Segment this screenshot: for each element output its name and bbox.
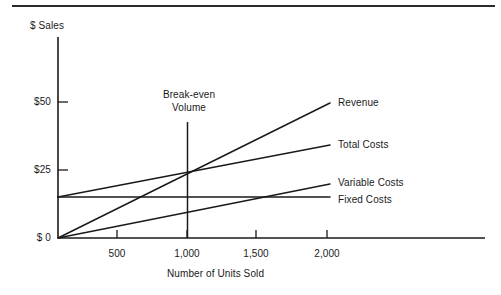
break-even-chart-figure: $ Sales $50 $25 $ 0 500 1,000 1,500 2,00… xyxy=(0,0,501,295)
y-tick-label-50: $50 xyxy=(21,96,51,108)
series-label-revenue: Revenue xyxy=(338,97,379,109)
y-axis-ticks xyxy=(58,102,68,170)
x-tick-label-2000: 2,000 xyxy=(305,248,349,260)
break-even-annotation-line1: Break-even xyxy=(156,88,222,101)
series-label-variable-costs: Variable Costs xyxy=(338,177,404,189)
x-axis-ticks xyxy=(117,230,327,238)
x-tick-label-1500: 1,500 xyxy=(234,248,278,260)
x-tick-label-1000: 1,000 xyxy=(165,248,209,260)
series-label-total-costs: Total Costs xyxy=(338,139,389,151)
break-even-annotation: Break-even Volume xyxy=(156,88,222,114)
series-line-variable-costs xyxy=(58,184,330,238)
x-axis-title: Number of Units Sold xyxy=(167,268,264,280)
y-tick-label-0: $ 0 xyxy=(21,232,51,244)
break-even-annotation-line2: Volume xyxy=(156,101,222,114)
series-line-total-costs xyxy=(58,145,330,197)
y-axis-title: $ Sales xyxy=(30,20,64,32)
axes xyxy=(58,37,485,238)
y-tick-label-25: $25 xyxy=(21,164,51,176)
x-tick-label-500: 500 xyxy=(95,248,139,260)
series-label-fixed-costs: Fixed Costs xyxy=(338,194,392,206)
